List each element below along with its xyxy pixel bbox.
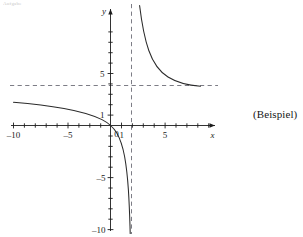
y-tick-label-neg-ten: –10 bbox=[91, 225, 106, 235]
figure-caption: (Beispiel) bbox=[253, 108, 297, 120]
x-tick-label-zero: 0 bbox=[114, 129, 119, 139]
y-tick-label-neg-five: –5 bbox=[96, 173, 107, 183]
x-axis-label: x bbox=[210, 130, 215, 140]
x-axis-arrowhead bbox=[210, 123, 216, 127]
x-tick-label-five: 5 bbox=[163, 130, 168, 140]
x-tick-label-neg-five: –5 bbox=[63, 130, 74, 140]
curve-lower-left-branch bbox=[14, 102, 131, 233]
figure-root: Aufgabe bbox=[0, 0, 303, 237]
curve-upper-right-branch bbox=[140, 6, 201, 87]
y-axis-label: y bbox=[101, 6, 106, 16]
y-tick-label-one: 1 bbox=[100, 110, 105, 120]
y-axis-arrowhead bbox=[108, 9, 112, 15]
x-tick-label-one: 1 bbox=[120, 130, 125, 140]
x-tick-label-neg-ten: –10 bbox=[6, 130, 21, 140]
y-tick-label-five: 5 bbox=[100, 69, 105, 79]
